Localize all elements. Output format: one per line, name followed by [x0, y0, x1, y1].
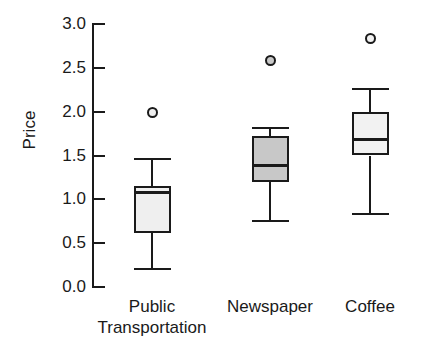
y-tick-label: 0.5 [20, 234, 86, 251]
median-line [134, 191, 171, 194]
lower-whisker-cap [252, 220, 289, 222]
y-tick-mark [94, 23, 105, 25]
y-tick-mark [94, 67, 105, 69]
outlier-point [147, 107, 158, 118]
y-tick-label: 1.5 [20, 147, 86, 164]
lower-whisker-line [151, 233, 153, 268]
y-tick-label: 2.0 [20, 103, 86, 120]
median-line [352, 138, 389, 141]
upper-whisker-cap [134, 158, 171, 160]
upper-whisker-cap [352, 88, 389, 90]
y-tick-label: 3.0 [20, 15, 86, 32]
y-tick-mark [94, 155, 105, 157]
y-tick-label: 1.0 [20, 190, 86, 207]
y-tick-mark [94, 286, 105, 288]
y-tick-mark [94, 242, 105, 244]
y-tick-label: 0.0 [20, 278, 86, 295]
box-rect [352, 112, 389, 156]
outlier-point [365, 33, 376, 44]
y-tick-mark [94, 198, 105, 200]
lower-whisker-cap [352, 213, 389, 215]
upper-whisker-line [369, 88, 371, 112]
lower-whisker-cap [134, 268, 171, 270]
upper-whisker-line [151, 158, 153, 186]
outlier-point [265, 55, 276, 66]
y-tick-label: 2.5 [20, 59, 86, 76]
box-rect [252, 136, 289, 182]
x-category-label: Coffee [295, 296, 430, 317]
median-line [252, 164, 289, 167]
y-tick-mark [94, 111, 105, 113]
lower-whisker-line [369, 156, 371, 214]
boxplot-chart: Price 3.02.52.01.51.00.50.0 Public Trans… [0, 0, 430, 356]
upper-whisker-cap [252, 127, 289, 129]
lower-whisker-line [269, 182, 271, 221]
